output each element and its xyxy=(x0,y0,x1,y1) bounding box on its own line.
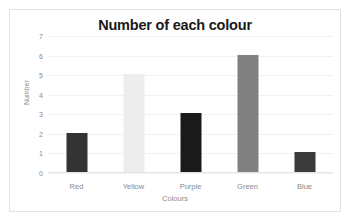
chart-figure: Number of each colour Number 01234567 Re… xyxy=(9,9,341,212)
gridline xyxy=(48,173,333,174)
x-axis-tick-label: Red xyxy=(48,182,105,191)
bar-slot xyxy=(162,35,219,172)
bar-red[interactable] xyxy=(66,133,87,172)
bar-purple[interactable] xyxy=(180,113,201,172)
y-axis-tick-label: 5 xyxy=(39,72,43,79)
x-axis-tick-label: Blue xyxy=(276,182,333,191)
y-axis-tick-label: 4 xyxy=(39,91,43,98)
y-axis-tick-label: 1 xyxy=(39,150,43,157)
chart-title: Number of each colour xyxy=(10,17,340,33)
bar-slot xyxy=(48,35,105,172)
bar-blue[interactable] xyxy=(294,152,315,172)
y-axis-label: Number xyxy=(23,80,30,105)
bar-green[interactable] xyxy=(237,55,258,172)
x-axis-tick-label: Green xyxy=(219,182,276,191)
x-axis-tick-label: Purple xyxy=(162,182,219,191)
y-axis-tick-label: 6 xyxy=(39,52,43,59)
bar-slot xyxy=(219,35,276,172)
y-axis-tick-label: 3 xyxy=(39,111,43,118)
bar-slot xyxy=(105,35,162,172)
y-axis-tick-label: 0 xyxy=(39,170,43,177)
bar-slot xyxy=(276,35,333,172)
x-axis-label: Colours xyxy=(10,194,340,203)
bar-yellow[interactable] xyxy=(123,74,144,172)
y-axis-tick-label: 2 xyxy=(39,130,43,137)
bar-series xyxy=(48,36,333,173)
x-axis-tick-label: Yellow xyxy=(105,182,162,191)
plot-area: 01234567 xyxy=(48,36,333,173)
y-axis-tick-label: 7 xyxy=(39,33,43,40)
